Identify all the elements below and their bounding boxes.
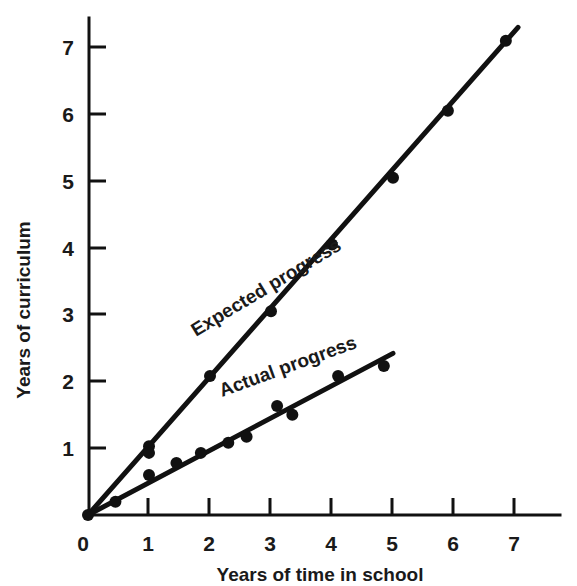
data-point <box>143 469 155 481</box>
data-point <box>195 447 207 459</box>
x-tick-label-origin: 0 <box>77 532 89 555</box>
data-point <box>222 437 234 449</box>
y-tick-label: 3 <box>62 303 74 326</box>
data-point <box>170 457 182 469</box>
x-tick-label: 5 <box>386 532 398 555</box>
data-point <box>500 35 512 47</box>
data-point <box>387 172 399 184</box>
progress-scatter-chart: 7 6 5 4 3 2 1 0 1 2 3 4 5 6 7 Years of t… <box>0 0 577 586</box>
x-tick-label: 2 <box>203 532 215 555</box>
series-label-expected-progress: Expected progress <box>187 234 344 340</box>
axis-lines <box>88 18 560 516</box>
y-tick-label: 2 <box>62 370 74 393</box>
y-tick-label: 4 <box>62 237 74 260</box>
y-axis-title: Years of curriculum <box>13 221 34 398</box>
x-tick-label: 6 <box>447 532 459 555</box>
data-point <box>109 496 121 508</box>
y-tick-label: 1 <box>62 437 74 460</box>
x-tick-label: 3 <box>264 532 276 555</box>
chart-figure: 7 6 5 4 3 2 1 0 1 2 3 4 5 6 7 Years of t… <box>0 0 577 586</box>
data-point <box>204 370 216 382</box>
data-point <box>286 409 298 421</box>
data-point <box>378 360 390 372</box>
y-tick-label: 5 <box>62 170 74 193</box>
data-point <box>271 400 283 412</box>
x-axis-ticks <box>148 498 514 515</box>
x-tick-label: 4 <box>325 532 337 555</box>
y-axis-tick-labels: 7 6 5 4 3 2 1 <box>62 36 74 460</box>
data-point <box>442 105 454 117</box>
data-point <box>241 431 253 443</box>
data-point <box>143 447 155 459</box>
x-tick-label: 1 <box>142 532 154 555</box>
data-point <box>265 305 277 317</box>
y-tick-label: 7 <box>62 36 74 59</box>
y-tick-label: 6 <box>62 103 74 126</box>
data-point <box>332 370 344 382</box>
x-axis-tick-labels: 0 1 2 3 4 5 6 7 <box>77 532 520 555</box>
y-axis-ticks <box>89 47 106 448</box>
x-axis-title: Years of time in school <box>217 564 424 585</box>
x-tick-label: 7 <box>508 532 520 555</box>
